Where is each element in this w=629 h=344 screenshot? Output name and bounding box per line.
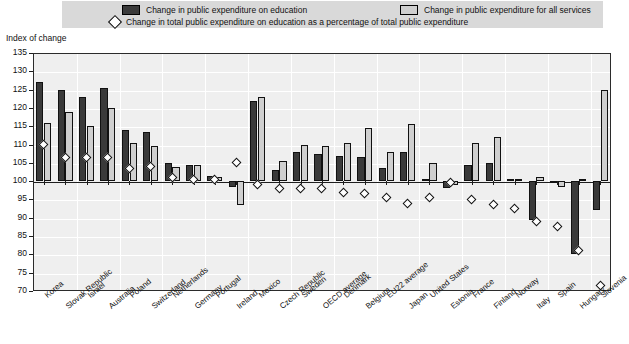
y-axis-label-80: 80	[0, 249, 27, 258]
marker-education-share[interactable]	[553, 222, 563, 232]
bar-group[interactable]	[54, 53, 75, 291]
bar-group[interactable]	[290, 53, 311, 291]
x-axis-tick	[408, 181, 409, 185]
x-axis-tick	[472, 181, 473, 185]
bar-all-services[interactable]	[279, 161, 286, 181]
bar-all-services[interactable]	[365, 128, 372, 181]
bar-group[interactable]	[140, 53, 161, 291]
x-axis-tick	[65, 181, 66, 185]
bar-group[interactable]	[333, 53, 354, 291]
bar-group[interactable]	[97, 53, 118, 291]
bar-group[interactable]	[590, 53, 611, 291]
bar-education[interactable]	[422, 179, 429, 181]
bar-education[interactable]	[400, 152, 407, 181]
bar-education[interactable]	[122, 130, 129, 181]
bar-all-services[interactable]	[472, 143, 479, 181]
marker-education-share[interactable]	[403, 198, 413, 208]
bar-all-services[interactable]	[515, 179, 522, 181]
marker-education-share[interactable]	[510, 204, 520, 214]
x-axis-tick	[493, 181, 494, 185]
bar-group[interactable]	[376, 53, 397, 291]
bar-education[interactable]	[272, 170, 279, 181]
y-axis-label-85: 85	[0, 231, 27, 240]
bar-group[interactable]	[547, 53, 568, 291]
bar-all-services[interactable]	[579, 179, 586, 181]
bar-all-services[interactable]	[387, 152, 394, 181]
bar-all-services[interactable]	[65, 112, 72, 182]
bar-education[interactable]	[507, 179, 514, 181]
legend-entry-education: Change in public expenditure on educatio…	[122, 4, 307, 15]
bar-group[interactable]	[311, 53, 332, 291]
legend-label-all-services: Change in public expenditure for all ser…	[424, 5, 591, 15]
bar-all-services[interactable]	[301, 145, 308, 182]
bar-education[interactable]	[58, 90, 65, 182]
bar-group[interactable]	[397, 53, 418, 291]
bar-education[interactable]	[550, 181, 557, 183]
bar-all-services[interactable]	[601, 90, 608, 182]
marker-education-share[interactable]	[467, 195, 477, 205]
marker-education-share[interactable]	[210, 174, 220, 184]
marker-education-share[interactable]	[296, 184, 306, 194]
marker-education-share[interactable]	[338, 187, 348, 197]
marker-education-share[interactable]	[488, 200, 498, 210]
x-axis-tick	[129, 181, 130, 185]
bar-all-services[interactable]	[429, 163, 436, 181]
bar-group[interactable]	[483, 53, 504, 291]
legend-entry-percentage: Change in total public expenditure on ed…	[110, 16, 468, 27]
bar-education[interactable]	[529, 181, 536, 219]
bar-education[interactable]	[143, 132, 150, 181]
marker-education-share[interactable]	[424, 193, 434, 203]
bar-all-services[interactable]	[408, 124, 415, 181]
marker-education-share[interactable]	[231, 158, 241, 168]
bar-education[interactable]	[100, 88, 107, 181]
bar-education[interactable]	[336, 156, 343, 182]
marker-education-share[interactable]	[253, 180, 263, 190]
bar-education[interactable]	[250, 101, 257, 182]
marker-education-share[interactable]	[274, 184, 284, 194]
bar-all-services[interactable]	[536, 177, 543, 181]
bar-education[interactable]	[379, 168, 386, 181]
bar-group[interactable]	[268, 53, 289, 291]
bar-group[interactable]	[226, 53, 247, 291]
bar-all-services[interactable]	[322, 146, 329, 181]
bar-group[interactable]	[440, 53, 461, 291]
bar-group[interactable]	[418, 53, 439, 291]
bar-education[interactable]	[357, 157, 364, 181]
bar-group[interactable]	[568, 53, 589, 291]
y-axis-label-125: 125	[0, 85, 27, 94]
bar-group[interactable]	[119, 53, 140, 291]
marker-education-share[interactable]	[360, 189, 370, 199]
legend-entry-all-services: Change in public expenditure for all ser…	[400, 4, 591, 15]
bar-education[interactable]	[593, 181, 600, 210]
bar-education[interactable]	[79, 97, 86, 181]
bar-group[interactable]	[504, 53, 525, 291]
bar-group[interactable]	[33, 53, 54, 291]
bar-all-services[interactable]	[494, 137, 501, 181]
x-axis-tick	[151, 181, 152, 185]
bar-group[interactable]	[525, 53, 546, 291]
x-axis-tick	[600, 181, 601, 185]
bar-all-services[interactable]	[344, 143, 351, 181]
bar-education[interactable]	[464, 165, 471, 181]
bar-group[interactable]	[354, 53, 375, 291]
bar-group[interactable]	[204, 53, 225, 291]
bar-group[interactable]	[161, 53, 182, 291]
bar-all-services[interactable]	[237, 181, 244, 205]
bar-education[interactable]	[293, 152, 300, 181]
bar-education[interactable]	[229, 181, 236, 186]
bar-all-services[interactable]	[130, 143, 137, 181]
bar-all-services[interactable]	[258, 97, 265, 181]
bar-all-services[interactable]	[108, 108, 115, 181]
bar-education[interactable]	[314, 154, 321, 181]
bar-group[interactable]	[461, 53, 482, 291]
bar-group[interactable]	[183, 53, 204, 291]
bar-group[interactable]	[76, 53, 97, 291]
bar-group[interactable]	[247, 53, 268, 291]
marker-education-share[interactable]	[317, 184, 327, 194]
marker-education-share[interactable]	[381, 193, 391, 203]
bar-education[interactable]	[571, 181, 578, 254]
bar-all-services[interactable]	[558, 181, 565, 186]
bar-education[interactable]	[486, 163, 493, 181]
bar-all-services[interactable]	[44, 123, 51, 182]
bar-education[interactable]	[36, 82, 43, 181]
